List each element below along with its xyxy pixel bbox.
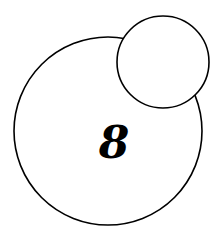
large-circle-label: 8 (98, 117, 130, 168)
circle-diagram: 8 (0, 0, 222, 242)
small-circle (117, 16, 209, 108)
